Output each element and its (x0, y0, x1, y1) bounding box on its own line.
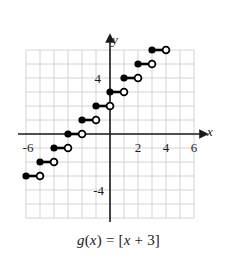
step-function-figure: x y -6 2 4 6 4 -4 (0, 0, 237, 278)
x-tick-label-4: 4 (163, 140, 170, 155)
open-endpoint (107, 103, 114, 110)
step-segment (78, 116, 99, 123)
y-tick-label-neg4: -4 (93, 183, 104, 198)
step-segment (106, 88, 127, 95)
closed-endpoint (36, 158, 43, 165)
open-endpoint (121, 89, 128, 96)
closed-endpoint (64, 130, 71, 137)
step-segment (134, 60, 155, 67)
closed-endpoint (92, 102, 99, 109)
caption-constant: 3 (147, 232, 155, 248)
closed-endpoint (22, 172, 29, 179)
open-endpoint (135, 75, 142, 82)
caption-close-paren: ) (97, 232, 102, 248)
step-segment (92, 102, 113, 109)
caption-bracket-close: ] (155, 232, 160, 248)
caption-plus: + (135, 232, 144, 248)
open-endpoint (149, 61, 156, 68)
figure-caption: g(x) = [x + 3] (0, 232, 237, 249)
closed-endpoint (50, 144, 57, 151)
step-segment (50, 144, 71, 151)
open-endpoint (65, 145, 72, 152)
x-tick-label-6: 6 (191, 140, 198, 155)
step-segment (36, 158, 57, 165)
caption-fn-name: g (77, 232, 85, 248)
step-segment (148, 46, 169, 53)
closed-endpoint (106, 88, 113, 95)
caption-fn-var: x (90, 232, 97, 248)
y-tick-label-4: 4 (95, 71, 102, 86)
y-axis-label: y (110, 32, 118, 47)
open-endpoint (51, 159, 58, 166)
closed-endpoint (134, 60, 141, 67)
x-axis-label: x (206, 124, 213, 139)
caption-inner-var: x (124, 232, 131, 248)
open-endpoint (163, 47, 170, 54)
caption-equals: = (106, 232, 115, 248)
step-segment (64, 130, 85, 137)
closed-endpoint (78, 116, 85, 123)
step-segment (22, 172, 43, 179)
closed-endpoint (148, 46, 155, 53)
open-endpoint (93, 117, 100, 124)
open-endpoint (37, 173, 44, 180)
step-segment (120, 74, 141, 81)
x-tick-label-2: 2 (135, 140, 142, 155)
open-endpoint (79, 131, 86, 138)
x-tick-label-neg6: -6 (23, 140, 34, 155)
closed-endpoint (120, 74, 127, 81)
